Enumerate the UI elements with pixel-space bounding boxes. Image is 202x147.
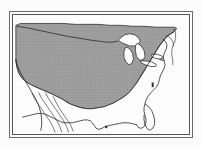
map-frame-inner [12,14,190,135]
us-range-map [13,15,189,134]
figure-root: Black and white map of the contiguous Un… [0,0,202,147]
chesapeake-mark-icon [152,82,154,87]
map-frame-outer [9,11,193,138]
